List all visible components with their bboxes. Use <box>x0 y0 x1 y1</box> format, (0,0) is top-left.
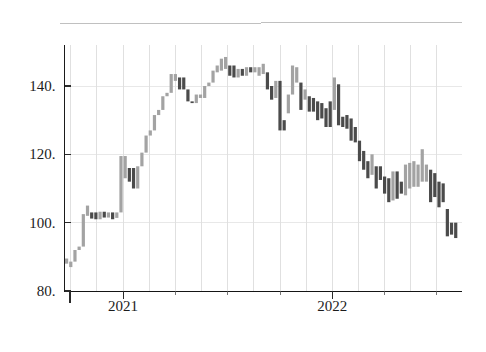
chart-bar <box>124 156 127 178</box>
y-tick-label: 140. <box>29 78 55 94</box>
chart-bar <box>291 66 294 95</box>
chart-bar <box>333 77 336 109</box>
x-tick-label: 2022 <box>317 298 347 314</box>
chart-bar <box>107 212 110 217</box>
chart-bar <box>320 103 323 118</box>
chart-container: 80.100.120.140. 20212022 <box>0 0 486 352</box>
chart-bar <box>412 161 415 187</box>
chart-bar <box>69 262 72 267</box>
chart-bar <box>354 127 357 142</box>
chart-bar <box>228 66 231 76</box>
chart-bar <box>199 95 202 98</box>
chart-bar <box>383 177 386 194</box>
chart-bar <box>136 166 139 188</box>
chart-bar <box>220 59 223 71</box>
chart-bar <box>379 166 382 180</box>
chart-bar <box>140 153 143 167</box>
chart-bar <box>295 67 298 82</box>
chart-bar <box>232 66 235 78</box>
chart-bar <box>103 212 106 218</box>
chart-bar <box>203 86 206 98</box>
chart-bar <box>345 115 348 129</box>
chart-bar <box>241 69 244 76</box>
y-tick-label: 120. <box>29 146 55 162</box>
chart-bar <box>316 101 319 120</box>
chart-bar <box>115 212 118 217</box>
chart-bar <box>224 57 227 69</box>
chart-bar <box>429 170 432 202</box>
chart-bar <box>170 74 173 93</box>
chart-bar <box>191 101 194 103</box>
chart-bar <box>149 130 152 135</box>
chart-bar <box>274 81 277 98</box>
chart-bar <box>186 89 189 101</box>
chart-bar <box>437 182 440 208</box>
chart-bar <box>144 136 147 153</box>
chart-bar <box>370 154 373 175</box>
chart-bar <box>362 151 365 170</box>
chart-bar <box>303 89 306 99</box>
chart-bar <box>207 83 210 86</box>
chart-bar <box>400 182 403 194</box>
price-chart: 80.100.120.140. 20212022 <box>0 0 486 352</box>
chart-bar <box>299 83 302 110</box>
chart-bar <box>182 77 185 89</box>
chart-bar <box>283 120 286 130</box>
chart-bar <box>266 72 269 89</box>
chart-bar <box>446 209 449 236</box>
chart-bar <box>416 165 419 187</box>
chart-bar <box>253 67 256 72</box>
y-tick-label: 100. <box>29 215 55 231</box>
chart-bar <box>308 96 311 111</box>
chart-bar <box>82 214 85 246</box>
chart-bar <box>358 141 361 162</box>
chart-bar <box>216 66 219 73</box>
chart-bar <box>65 259 68 264</box>
chart-bar <box>86 206 89 216</box>
chart-bar <box>165 93 168 96</box>
chart-bar <box>396 171 399 198</box>
chart-bar <box>366 161 369 178</box>
chart-bar <box>257 67 260 76</box>
chart-bar <box>287 95 290 114</box>
chart-bar <box>111 212 114 219</box>
chart-bar <box>94 212 97 219</box>
chart-bar <box>341 117 344 127</box>
chart-bar <box>387 178 390 202</box>
chart-bar <box>161 96 164 110</box>
chart-bar <box>245 67 248 76</box>
chart-bar <box>421 149 424 181</box>
chart-bar <box>337 84 340 125</box>
chart-bar <box>278 81 281 131</box>
chart-bar <box>157 110 160 115</box>
chart-bar <box>408 163 411 189</box>
chart-bar <box>237 69 240 78</box>
chart-bar <box>404 165 407 196</box>
chart-bar <box>90 212 93 218</box>
x-tick-label: 2021 <box>108 298 138 314</box>
chart-bar <box>350 118 353 140</box>
chart-bar <box>128 168 131 182</box>
chart-bar <box>211 71 214 83</box>
chart-bar <box>442 183 445 202</box>
chart-bar <box>425 165 428 182</box>
chart-bar <box>270 86 273 100</box>
chart-bar <box>450 223 453 235</box>
chart-bar <box>73 250 76 262</box>
chart-bar <box>312 98 315 112</box>
chart-bar <box>119 156 122 212</box>
chart-bar <box>132 168 135 189</box>
chart-bar <box>98 212 101 220</box>
chart-bar <box>454 223 457 238</box>
chart-bar <box>433 173 436 197</box>
chart-bar <box>249 67 252 72</box>
chart-bar <box>78 247 81 250</box>
chart-bar <box>262 64 265 74</box>
chart-bar <box>324 108 327 127</box>
chart-bar <box>178 77 181 89</box>
chart-bar <box>174 74 177 81</box>
chart-bar <box>391 171 394 200</box>
chart-bar <box>195 95 198 104</box>
y-tick-label: 80. <box>37 283 56 299</box>
chart-bar <box>153 115 156 130</box>
